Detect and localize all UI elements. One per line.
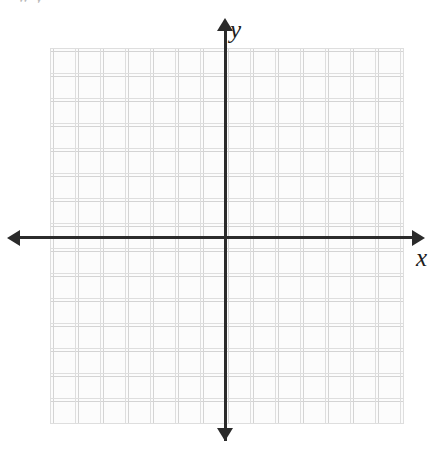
y-axis-down-arrow-icon [217, 428, 233, 441]
x-axis-label: x [416, 245, 427, 270]
x-axis-line [14, 236, 415, 239]
y-axis-line [224, 24, 227, 441]
cropped-header-text: w y [18, 0, 218, 3]
y-axis-label: y [230, 17, 241, 42]
x-axis-left-arrow-icon [7, 230, 20, 246]
coordinate-grid-figure: w y y x [0, 0, 439, 449]
